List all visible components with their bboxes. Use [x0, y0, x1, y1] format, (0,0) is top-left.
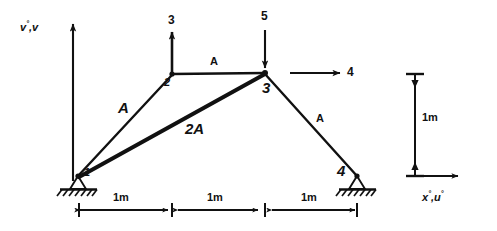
load-arrows — [172, 30, 340, 73]
joint-2 — [169, 71, 174, 76]
member-label-1-2: A — [118, 100, 129, 115]
scale-bar-label: 1m — [422, 112, 438, 123]
member-2-3 — [172, 73, 265, 74]
member-1-3 — [79, 74, 265, 177]
member-1-2 — [78, 75, 172, 176]
member-label-1-3: 2A — [185, 121, 204, 136]
node-label-4: 4 — [337, 163, 345, 178]
node-label-1: 1 — [84, 167, 90, 178]
scale-bar — [406, 74, 458, 176]
support-node-1 — [57, 176, 97, 196]
joint-3 — [262, 70, 268, 76]
node-label-2: 2 — [164, 77, 170, 88]
dimension-label-1: 1m — [113, 192, 129, 203]
member-3-4 — [265, 74, 357, 176]
support-node-4 — [336, 176, 376, 196]
member-label-3-4: A — [316, 113, 324, 124]
truss-diagram: v°,v x°,u° 1m 3 5 4 1 2 3 4 A A 2A A 1m … — [0, 0, 497, 231]
dimension-line — [79, 203, 357, 217]
vertical-axis-label: v°,v — [20, 20, 38, 33]
dimension-label-2: 1m — [207, 192, 223, 203]
node-label-3: 3 — [262, 80, 270, 95]
truss-members — [78, 73, 357, 177]
load-label-5: 5 — [261, 10, 268, 22]
load-label-4: 4 — [347, 66, 354, 78]
truss-joints — [75, 70, 359, 179]
dimension-label-3: 1m — [301, 192, 317, 203]
horizontal-axis-label: x°,u° — [422, 190, 444, 203]
member-label-2-3: A — [210, 56, 218, 67]
load-label-3: 3 — [168, 14, 175, 26]
